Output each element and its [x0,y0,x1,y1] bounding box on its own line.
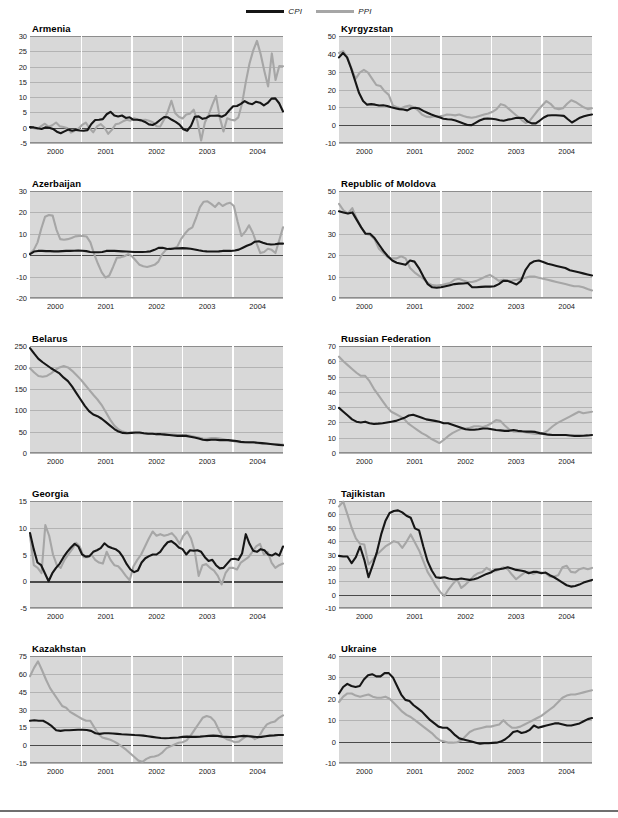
y-axis-tick: 20 [19,62,27,71]
chart-panel-belarus: Belarus250200150100500200020012002200320… [0,332,309,487]
y-axis: 75604530150-15 [0,656,27,763]
chart-title: Belarus [32,333,68,344]
x-axis-tick: 2003 [199,147,216,156]
x-axis-tick: 2002 [148,147,165,156]
plot-area [339,501,592,608]
y-axis-tick: 40 [328,387,336,396]
x-axis-tick: 2001 [407,767,424,776]
chart-panel-kyrgyzstan: Kyrgyzstan50403020100-102000200120022003… [309,22,618,177]
x-axis-tick: 2000 [356,457,373,466]
y-axis-tick: -10 [325,604,336,613]
series-layer [30,191,283,298]
y-axis-tick: 0 [332,294,336,303]
series-line-cpi [30,533,283,581]
y-axis-tick: 40 [328,652,336,661]
plot-area [339,36,592,143]
x-axis-tick: 2003 [508,302,525,311]
y-axis-tick: -10 [16,272,27,281]
x-axis-tick: 2001 [98,767,115,776]
gridline-horizontal [339,608,592,609]
x-axis-tick: 2000 [356,612,373,621]
y-axis-tick: 0 [23,577,27,586]
series-line-ppi [30,201,283,277]
gridline-horizontal [339,453,592,454]
y-axis-tick: 10 [19,229,27,238]
y-axis-tick: 15 [19,497,27,506]
y-axis-tick: 30 [328,403,336,412]
y-axis-tick: 70 [328,342,336,351]
x-axis-tick: 2002 [457,302,474,311]
x-axis-tick: 2003 [199,302,216,311]
x-axis: 20002001200220032004 [339,145,592,159]
x-axis-tick: 2001 [407,147,424,156]
y-axis-tick: 20 [328,563,336,572]
x-axis-tick: 2003 [199,457,216,466]
y-axis-tick: 30 [19,32,27,41]
x-axis-tick: 2004 [558,302,575,311]
gridline-horizontal [30,453,283,454]
x-axis-tick: 2001 [407,302,424,311]
y-axis-tick: 30 [328,550,336,559]
y-axis-tick: -10 [325,759,336,768]
y-axis-tick: 20 [328,251,336,260]
y-axis-tick: 10 [328,433,336,442]
y-axis-tick: -15 [16,759,27,768]
gridline-horizontal [339,763,592,764]
y-axis-tick: 10 [328,716,336,725]
x-axis-tick: 2001 [98,612,115,621]
legend-entry-ppi: PPI [316,7,372,16]
x-axis-tick: 2000 [47,767,64,776]
y-axis-tick: 30 [328,229,336,238]
series-layer [339,346,592,453]
series-line-cpi [339,510,592,586]
x-axis-tick: 2003 [508,767,525,776]
series-line-ppi [30,661,283,761]
y-axis-tick: 10 [328,272,336,281]
legend-swatch-ppi-icon [316,10,354,13]
x-axis: 20002001200220032004 [30,455,283,469]
legend-label-cpi: CPI [288,7,302,16]
legend-swatch-cpi-icon [246,10,284,13]
y-axis-tick: 50 [19,427,27,436]
series-layer [30,346,283,453]
y-axis-tick: 50 [328,187,336,196]
chart-title: Armenia [32,23,71,34]
y-axis-tick: 150 [14,384,27,393]
y-axis-tick: 10 [19,523,27,532]
chart-panel-republic-of-moldova: Republic of Moldova504030201002000200120… [309,177,618,332]
y-axis: 403020100-10 [309,656,336,763]
gridline-horizontal [339,143,592,144]
x-axis-tick: 2002 [148,302,165,311]
y-axis-tick: 20 [328,694,336,703]
y-axis-tick: 0 [23,123,27,132]
gridline-horizontal [30,608,283,609]
y-axis-tick: 50 [328,523,336,532]
chart-title: Tajikistan [341,488,385,499]
x-axis-tick: 2003 [199,767,216,776]
y-axis-tick: 30 [328,673,336,682]
series-layer [30,36,283,143]
x-axis: 20002001200220032004 [339,300,592,314]
chart-title: Ukraine [341,643,377,654]
x-axis-tick: 2004 [558,147,575,156]
legend-label-ppi: PPI [358,7,372,16]
x-axis-tick: 2002 [148,767,165,776]
x-axis-tick: 2004 [249,612,266,621]
x-axis: 20002001200220032004 [339,765,592,779]
x-axis: 20002001200220032004 [30,610,283,624]
plot-area [30,36,283,143]
y-axis-tick: 250 [14,342,27,351]
y-axis-tick: 25 [19,47,27,56]
plot-area [30,656,283,763]
x-axis-tick: 2002 [148,457,165,466]
y-axis-tick: -5 [20,604,27,613]
bottom-rule [0,810,618,812]
x-axis-tick: 2001 [407,612,424,621]
y-axis-tick: 5 [23,108,27,117]
series-layer [339,501,592,608]
y-axis-tick: 100 [14,406,27,415]
y-axis-tick: 40 [328,208,336,217]
chart-panel-kazakhstan: Kazakhstan75604530150-152000200120022003… [0,642,309,802]
series-line-cpi [30,348,283,445]
x-axis-tick: 2001 [407,457,424,466]
